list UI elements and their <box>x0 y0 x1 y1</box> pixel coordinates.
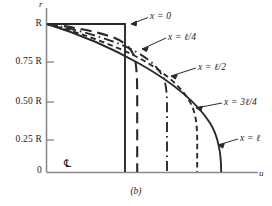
curve-x-l <box>47 24 221 172</box>
x-axis-label: u <box>259 168 264 178</box>
curve-label-x-l-over-2: x = ℓ/2 <box>198 62 226 72</box>
centerline-symbol: ℄ <box>64 157 71 170</box>
figure-caption: (b) <box>0 186 272 196</box>
y-axis-label: r <box>39 0 43 9</box>
curve-label-x-l-over-4: x = ℓ/4 <box>168 32 196 42</box>
y-tick-label-050R: 0.50 R <box>0 96 42 106</box>
y-tick-label-075R: 0.75 R <box>0 56 42 66</box>
curve-x-0 <box>47 24 125 172</box>
y-tick-label-0: 0 <box>0 165 42 175</box>
velocity-profile-figure: r u R 0.75 R 0.50 R 0.25 R 0 x = 0 x = ℓ… <box>0 0 272 206</box>
y-tick-label-R: R <box>0 18 42 28</box>
y-tick-label-025R: 0.25 R <box>0 134 42 144</box>
curve-x-3l-over-4 <box>47 24 197 172</box>
curve-label-x-l: x = ℓ <box>240 133 260 143</box>
curve-label-x-3l-over-4: x = 3ℓ/4 <box>224 97 257 107</box>
curve-label-x-0: x = 0 <box>150 11 171 21</box>
